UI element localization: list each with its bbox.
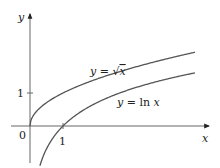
ln-curve [40,73,195,166]
ln-curve-label: y = ln x [116,96,161,109]
sqrt-curve-label: y = √x [89,65,126,78]
chart-canvas: y x 0 1 1 y = √x y = ln x [0,0,220,168]
y-tick-label-1: 1 [17,87,24,100]
x-tick-label-1: 1 [59,135,66,148]
sqrt-curve [30,52,195,126]
x-axis-label: x [202,132,209,145]
y-axis-label: y [17,11,25,24]
origin-label: 0 [19,129,26,142]
